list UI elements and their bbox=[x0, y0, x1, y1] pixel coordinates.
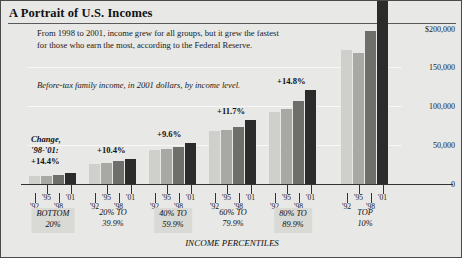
x-axis-year-label: '01 bbox=[378, 193, 387, 202]
group-caption-line: 20% bbox=[36, 220, 69, 231]
y-axis-top-label: $200,000 bbox=[425, 25, 455, 34]
x-axis-year-label: '01 bbox=[126, 193, 135, 202]
bar bbox=[245, 120, 256, 184]
x-axis-year-label: '01 bbox=[306, 193, 315, 202]
bar bbox=[365, 31, 376, 184]
bar-group bbox=[149, 28, 196, 184]
bar bbox=[89, 164, 100, 184]
group-caption-line: 40% TO bbox=[159, 209, 187, 220]
bar bbox=[113, 161, 124, 184]
group-caption: 20% TO39.9% bbox=[99, 208, 127, 230]
group-caption: 40% TO59.9% bbox=[154, 208, 192, 233]
group-caption-line: 20% TO bbox=[99, 208, 127, 219]
x-axis-year-label: '95 bbox=[354, 193, 363, 202]
x-axis-year-label: '95 bbox=[42, 193, 51, 202]
x-axis-year-label: '01 bbox=[246, 193, 255, 202]
bar bbox=[269, 112, 280, 184]
bar bbox=[209, 131, 220, 184]
bar-group bbox=[89, 28, 136, 184]
group-caption-line: 10% bbox=[357, 219, 373, 230]
growth-annotation: +9.6% bbox=[157, 129, 181, 139]
y-axis-tick-label: 150,000 bbox=[429, 63, 455, 72]
bar bbox=[221, 130, 232, 184]
growth-annotation: +10.4% bbox=[97, 145, 126, 155]
plot-area: +14.4%+10.4%+9.6%+11.7%+14.8%+19.3% bbox=[27, 28, 402, 184]
x-axis-year-label: '95 bbox=[222, 193, 231, 202]
title-divider bbox=[8, 23, 456, 24]
x-axis-year-label: '92 bbox=[90, 202, 99, 211]
bar bbox=[29, 176, 40, 184]
x-axis-year-label: '95 bbox=[282, 193, 291, 202]
bar bbox=[293, 101, 304, 184]
group-caption: 60% TO79.9% bbox=[219, 208, 247, 230]
growth-annotation: +14.8% bbox=[277, 76, 306, 86]
change-legend-line2: '98-'01: bbox=[31, 145, 61, 156]
group-caption: 80% TO89.9% bbox=[274, 208, 312, 233]
group-caption-line: 89.9% bbox=[279, 220, 307, 231]
group-caption-line: BOTTOM bbox=[36, 209, 69, 220]
bar bbox=[149, 150, 160, 184]
y-axis-tick-label: 100,000 bbox=[429, 102, 455, 111]
group-caption-line: 60% TO bbox=[219, 208, 247, 219]
group-caption-line: 80% TO bbox=[279, 209, 307, 220]
change-legend: Change, '98-'01: +14.4% bbox=[31, 134, 61, 167]
group-caption-line: 79.9% bbox=[219, 219, 247, 230]
bar bbox=[125, 159, 136, 184]
bar-group bbox=[269, 28, 316, 184]
page-title: A Portrait of U.S. Incomes bbox=[9, 6, 153, 21]
bar bbox=[173, 147, 184, 184]
bar bbox=[41, 176, 52, 185]
growth-annotation: +11.7% bbox=[217, 106, 245, 116]
x-axis-year-label: '92 bbox=[210, 202, 219, 211]
bar bbox=[281, 109, 292, 184]
x-axis-year-label: '92 bbox=[342, 202, 351, 211]
x-axis-year-label: '95 bbox=[102, 193, 111, 202]
group-caption-line: 39.9% bbox=[99, 219, 127, 230]
x-axis-baseline bbox=[21, 184, 453, 185]
x-axis-title: INCOME PERCENTILES bbox=[1, 238, 462, 248]
bar-group bbox=[341, 28, 388, 184]
change-legend-value: +14.4% bbox=[31, 156, 61, 167]
group-caption: TOP10% bbox=[357, 208, 373, 230]
bar bbox=[233, 127, 244, 184]
bar bbox=[305, 90, 316, 184]
group-caption-line: 59.9% bbox=[159, 220, 187, 231]
chart-figure: A Portrait of U.S. Incomes From 1998 to … bbox=[0, 0, 462, 258]
bar bbox=[185, 143, 196, 184]
bar bbox=[377, 1, 388, 184]
x-axis-year-label: '01 bbox=[186, 193, 195, 202]
bar bbox=[65, 173, 76, 184]
group-caption-line: TOP bbox=[357, 208, 373, 219]
change-legend-line1: Change, bbox=[31, 134, 61, 145]
x-axis-year-label: '95 bbox=[162, 193, 171, 202]
bar bbox=[101, 163, 112, 184]
bar bbox=[353, 53, 364, 184]
bar bbox=[53, 175, 64, 184]
x-axis-year-label: '01 bbox=[66, 193, 75, 202]
bar bbox=[341, 50, 352, 184]
bar bbox=[161, 149, 172, 184]
y-axis-tick-label: 50,000 bbox=[433, 141, 455, 150]
group-caption: BOTTOM20% bbox=[31, 208, 74, 233]
